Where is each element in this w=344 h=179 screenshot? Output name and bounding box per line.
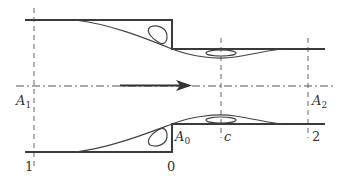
lower-corner-eddy — [148, 128, 167, 146]
label-section-1: 1 — [25, 159, 33, 174]
label-section-0: 0 — [167, 159, 175, 174]
label-A1: A1 — [15, 93, 31, 110]
upper-wall — [25, 20, 325, 49]
label-section-2: 2 — [312, 129, 320, 144]
pipe-contraction-diagram: A1 A2 A0 c 1 0 2 — [0, 0, 344, 179]
label-A2: A2 — [311, 93, 327, 110]
label-c: c — [224, 129, 232, 144]
upper-streamline — [75, 20, 282, 58]
label-A0: A0 — [174, 129, 190, 146]
